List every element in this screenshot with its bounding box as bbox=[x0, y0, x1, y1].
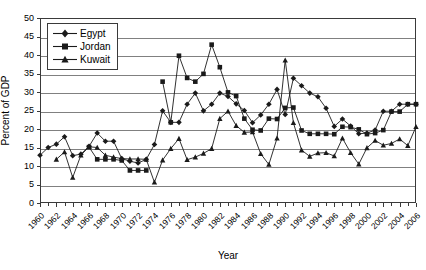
legend-marker-square-icon bbox=[52, 40, 78, 53]
legend-label: Jordan bbox=[78, 41, 111, 52]
legend-item-kuwait: Kuwait bbox=[52, 53, 111, 66]
chart-container: Percent of GDP Year 05101520253035404550… bbox=[0, 0, 426, 270]
legend-item-egypt: Egypt bbox=[52, 27, 111, 40]
series-kuwait bbox=[54, 57, 419, 184]
series-egypt bbox=[37, 76, 419, 166]
series-jordan bbox=[87, 42, 419, 172]
legend-label: Kuwait bbox=[78, 54, 110, 65]
chart-legend: Egypt Jordan Kuwait bbox=[47, 23, 118, 70]
legend-marker-diamond-icon bbox=[52, 27, 78, 40]
legend-label: Egypt bbox=[78, 28, 106, 39]
legend-item-jordan: Jordan bbox=[52, 40, 111, 53]
legend-marker-triangle-icon bbox=[52, 53, 78, 66]
